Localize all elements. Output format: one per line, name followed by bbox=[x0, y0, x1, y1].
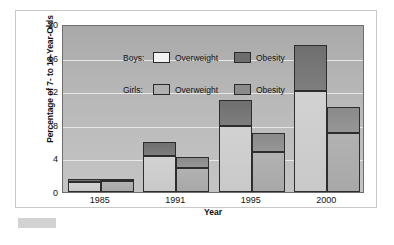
legend-label: Obesity bbox=[256, 85, 285, 95]
y-tick-label: 0 bbox=[36, 188, 58, 198]
bar-girls-2000[interactable] bbox=[327, 107, 360, 192]
legend-entry-boys-overweight: Overweight bbox=[153, 52, 218, 63]
boys-overweight-swatch-icon bbox=[153, 52, 170, 63]
legend-label: Overweight bbox=[175, 85, 218, 95]
girls-obesity-segment[interactable] bbox=[327, 107, 360, 133]
legend-entry-girls-overweight: Overweight bbox=[153, 84, 218, 95]
bar-boys-1985[interactable] bbox=[68, 179, 101, 192]
girls-obesity-segment[interactable] bbox=[176, 157, 209, 169]
x-tick-label: 2000 bbox=[316, 195, 336, 205]
y-tick-label: 12 bbox=[36, 87, 58, 97]
boys-overweight-segment[interactable] bbox=[219, 126, 252, 192]
boys-overweight-segment[interactable] bbox=[68, 182, 101, 192]
y-tick-label: 16 bbox=[36, 54, 58, 64]
legend-entry-boys-obesity: Obesity bbox=[234, 52, 285, 63]
y-tick-label: 4 bbox=[36, 154, 58, 164]
girls-overweight-swatch-icon bbox=[153, 84, 170, 95]
bar-girls-1985[interactable] bbox=[101, 179, 134, 192]
girls-obesity-segment[interactable] bbox=[252, 133, 285, 151]
legend-label: Overweight bbox=[175, 53, 218, 63]
bar-boys-1991[interactable] bbox=[143, 142, 176, 192]
legend-label: Obesity bbox=[256, 53, 285, 63]
x-axis-title: Year bbox=[62, 207, 364, 217]
legend-row-boys: Boys: Overweight Obesity bbox=[123, 50, 301, 65]
legend-group-label-boys: Boys: bbox=[123, 53, 153, 63]
bottom-gray-tab bbox=[18, 218, 56, 228]
x-tick-label: 1995 bbox=[241, 195, 261, 205]
x-tick-label: 1985 bbox=[90, 195, 110, 205]
girls-obesity-segment[interactable] bbox=[101, 179, 134, 181]
bar-girls-1991[interactable] bbox=[176, 157, 209, 192]
girls-overweight-segment[interactable] bbox=[176, 168, 209, 192]
girls-overweight-segment[interactable] bbox=[252, 152, 285, 192]
y-axis-tick-labels: 20 16 12 8 4 0 bbox=[36, 11, 58, 209]
chart-figure-frame: Percentage of 7- to 18-Year-Olds 20 16 1… bbox=[15, 10, 377, 208]
girls-obesity-swatch-icon bbox=[234, 84, 251, 95]
boys-overweight-segment[interactable] bbox=[143, 156, 176, 192]
boys-obesity-swatch-icon bbox=[234, 52, 251, 63]
legend-entry-girls-obesity: Obesity bbox=[234, 84, 285, 95]
legend-group-label-girls: Girls: bbox=[123, 85, 153, 95]
chart-legend: Boys: Overweight Obesity Girls: Overweig… bbox=[123, 50, 301, 114]
girls-overweight-segment[interactable] bbox=[101, 181, 134, 192]
legend-row-girls: Girls: Overweight Obesity bbox=[123, 82, 301, 97]
bar-group-2000 bbox=[294, 26, 360, 192]
y-tick-label: 20 bbox=[36, 20, 58, 30]
y-tick-label: 8 bbox=[36, 121, 58, 131]
bar-girls-1995[interactable] bbox=[252, 133, 285, 192]
girls-overweight-segment[interactable] bbox=[327, 133, 360, 192]
boys-obesity-segment[interactable] bbox=[143, 142, 176, 156]
plot-area: Boys: Overweight Obesity Girls: Overweig… bbox=[62, 25, 364, 193]
boys-obesity-segment[interactable] bbox=[68, 179, 101, 182]
x-tick-label: 1991 bbox=[165, 195, 185, 205]
